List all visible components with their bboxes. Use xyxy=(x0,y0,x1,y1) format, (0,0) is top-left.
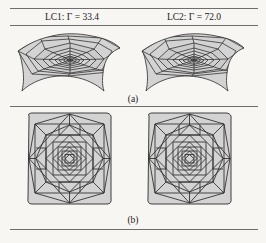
figure-container: LC1: Γ = 33.4 LC2: Γ = 72.0 xyxy=(0,0,266,243)
figure-a-lc2-perspective xyxy=(136,27,248,93)
rule-bottom xyxy=(10,229,258,230)
column-label-lc1: LC1: Γ = 33.4 xyxy=(12,11,132,24)
panel-caption-b: (b) xyxy=(0,214,266,226)
figure-b-lc1-plan xyxy=(22,110,118,208)
panel-caption-a: (a) xyxy=(0,93,266,105)
rule-between-panels xyxy=(10,106,258,107)
rule-under-headers xyxy=(10,25,258,26)
figure-b-lc2-plan xyxy=(142,110,238,208)
rule-top xyxy=(10,8,258,9)
column-label-lc2: LC2: Γ = 72.0 xyxy=(134,11,254,24)
figure-a-lc1-perspective xyxy=(12,27,124,93)
